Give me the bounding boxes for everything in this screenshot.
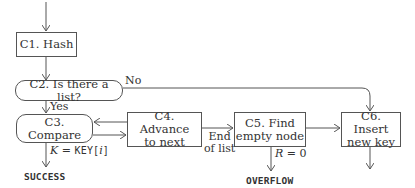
- edge-label-k-equals-key-i: K = KEY[i]: [50, 145, 109, 157]
- edge-label-no: No: [125, 75, 141, 87]
- edge-label-r-equals-zero: R = 0: [275, 148, 307, 160]
- node-c3-label: C3. Compare: [17, 116, 92, 142]
- edge-label-end-line2: of list: [204, 143, 235, 155]
- node-c4-line1: C4. Advance: [128, 110, 201, 136]
- node-c6-line2: new key: [347, 136, 395, 149]
- node-c4-line2: to next: [144, 136, 185, 149]
- node-c2-label: C2. Is there a list?: [16, 78, 122, 104]
- node-c5-line2: empty node: [236, 130, 304, 143]
- edge-label-yes: Yes: [50, 101, 68, 113]
- k-variable: K: [50, 144, 58, 157]
- node-c1-label: C1. Hash: [20, 38, 74, 51]
- node-c1-hash: C1. Hash: [16, 32, 77, 57]
- edge-label-end-of-list: End of list: [204, 131, 235, 155]
- key-array: KEY[: [74, 145, 99, 156]
- terminal-success: SUCCESS: [24, 171, 65, 183]
- r-equals-zero: = 0: [283, 147, 306, 160]
- k-equals: =: [58, 144, 74, 157]
- node-c6-insert-new-key: C6. Insert new key: [341, 112, 401, 147]
- key-close: ]: [103, 145, 109, 156]
- terminal-overflow: OVERFLOW: [246, 175, 293, 187]
- node-c2-is-there-a-list: C2. Is there a list?: [15, 80, 123, 101]
- node-c6-line1: C6. Insert: [342, 110, 400, 136]
- node-c5-line1: C5. Find: [245, 117, 295, 130]
- c2-to-c6-arrow: [123, 88, 370, 111]
- node-c3-compare: C3. Compare: [16, 114, 93, 143]
- node-c5-find-empty-node: C5. Find empty node: [234, 112, 306, 147]
- node-c4-advance-to-next: C4. Advance to next: [127, 112, 202, 147]
